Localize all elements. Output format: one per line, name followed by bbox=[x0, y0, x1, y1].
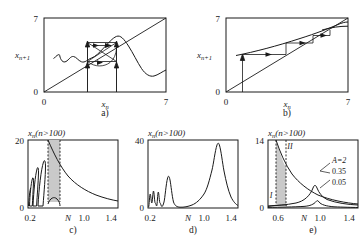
panel-e-ylabel: xn(n>100) bbox=[267, 128, 305, 139]
panel-d-ytick-max: 40 bbox=[135, 136, 145, 146]
panel-b-xtick-min: 0 bbox=[224, 97, 229, 107]
legend-entry-A2: A=2 bbox=[331, 156, 346, 165]
panel-d-xtick-1: 0.2 bbox=[144, 213, 155, 223]
panel-c-ytick-max: 20 bbox=[15, 136, 25, 146]
panel-c-xtick-1: 0.2 bbox=[24, 213, 35, 223]
shaded-region bbox=[276, 140, 286, 204]
panel-c: 20 0 0.2 1.0 1.4 xn(n>100) N c) bbox=[2, 118, 124, 236]
identity-line bbox=[44, 18, 166, 92]
panel-e-caption: e) bbox=[309, 225, 316, 236]
panel-d-ylabel: xn(n>100) bbox=[147, 128, 185, 139]
initial-condition-arrow bbox=[240, 54, 244, 92]
identity-line bbox=[226, 18, 348, 92]
panel-d-xtick-2: 1.0 bbox=[198, 213, 210, 223]
region-label-II: II bbox=[286, 142, 293, 151]
panel-b: 7 0 0 7 xn+1 xn b) bbox=[182, 2, 364, 118]
panel-a-ylabel: xn+1 bbox=[14, 50, 30, 61]
map-curve bbox=[54, 36, 166, 76]
panel-e-xtick-3: 1.4 bbox=[343, 213, 355, 223]
panel-d: 40 0 0.2 1.0 1.4 xn(n>100) N d) bbox=[122, 118, 244, 236]
panel-c-xtick-3: 1.4 bbox=[105, 213, 117, 223]
panel-d-caption: d) bbox=[189, 225, 197, 236]
panel-c-ytick-min: 0 bbox=[20, 203, 25, 213]
panel-e-xtick-2: 1.0 bbox=[314, 213, 326, 223]
panel-e-ytick-max: 14 bbox=[255, 136, 265, 146]
figure-panel-grid: 7 0 0 7 xn+1 xn a) bbox=[0, 0, 364, 236]
panel-e: I II A=2 0.35 0.05 14 0 0.6 1.0 1.4 xn(n… bbox=[242, 118, 364, 236]
panel-d-xlabel: N bbox=[184, 213, 192, 223]
panel-c-xlabel: N bbox=[64, 213, 72, 223]
panel-d-ytick-min: 0 bbox=[140, 203, 145, 213]
panel-e-xlabel: N bbox=[300, 213, 308, 223]
region-label-I: I bbox=[269, 191, 273, 200]
subharmonic-tongue-2 bbox=[33, 168, 39, 206]
subharmonic-tongue-3 bbox=[38, 161, 46, 206]
map-curve-tail bbox=[322, 26, 348, 30]
panel-b-ylabel: xn+1 bbox=[196, 50, 212, 61]
panel-a: 7 0 0 7 xn+1 xn a) bbox=[0, 2, 182, 118]
map-curve bbox=[236, 22, 348, 56]
panel-a-ytick-max: 7 bbox=[34, 14, 39, 24]
legend-leader-lines bbox=[320, 163, 330, 188]
panel-c-ylabel: xn(n>100) bbox=[27, 128, 65, 139]
panel-a-xtick-max: 7 bbox=[164, 97, 169, 107]
legend-entry-005: 0.05 bbox=[332, 178, 346, 187]
panel-b-ytick-max: 7 bbox=[216, 14, 221, 24]
panel-c-caption: c) bbox=[69, 225, 76, 236]
panel-b-ytick-min: 0 bbox=[216, 87, 221, 97]
legend-entry-035: 0.35 bbox=[332, 167, 346, 176]
panel-a-ytick-min: 0 bbox=[34, 87, 39, 97]
panel-d-xtick-3: 1.4 bbox=[225, 213, 237, 223]
vertical-marker-arrows bbox=[85, 41, 118, 92]
panel-e-xtick-1: 0.6 bbox=[272, 213, 284, 223]
panel-e-ytick-min: 0 bbox=[260, 203, 265, 213]
panel-b-xtick-max: 7 bbox=[346, 97, 351, 107]
panel-c-xtick-2: 1.0 bbox=[78, 213, 90, 223]
panel-a-xtick-min: 0 bbox=[42, 97, 47, 107]
response-amplitude-curve bbox=[149, 143, 238, 207]
